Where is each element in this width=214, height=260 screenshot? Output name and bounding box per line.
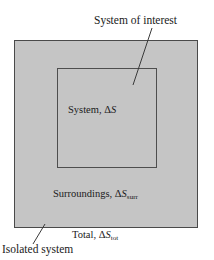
label-system-entropy: System, ΔS [68,104,116,116]
label-isolated-system: Isolated system [2,243,73,256]
label-surroundings-subscript: surr [127,193,138,201]
label-total-symbol: S [105,229,110,240]
label-total-subscript: tot [111,234,119,242]
system-of-interest-region [57,68,157,168]
label-system-of-interest: System of interest [94,14,177,27]
entropy-diagram: System of interest System, ΔS Surroundin… [0,0,214,260]
label-total-prefix: Total, [72,229,99,240]
label-system-prefix: System, [68,104,104,115]
label-surroundings-entropy: Surroundings, ΔSsurr [53,188,138,200]
label-surroundings-prefix: Surroundings, [53,188,115,199]
label-surroundings-delta: Δ [115,188,122,199]
label-system-delta: Δ [104,104,111,115]
label-total-entropy: Total, ΔStot [72,229,118,241]
label-system-symbol: S [111,104,116,115]
